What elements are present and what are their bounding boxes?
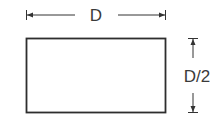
- width-label: D: [90, 6, 102, 25]
- arrow-up-icon: [191, 39, 196, 45]
- height-dimension: D/2: [184, 39, 210, 113]
- dimension-diagram: D D/2: [0, 0, 221, 135]
- arrow-down-icon: [191, 106, 196, 112]
- height-label: D/2: [184, 67, 210, 86]
- rectangle-shape: [27, 39, 166, 113]
- arrow-right-icon: [159, 13, 165, 18]
- width-dimension: D: [27, 6, 166, 25]
- arrow-left-icon: [27, 13, 33, 18]
